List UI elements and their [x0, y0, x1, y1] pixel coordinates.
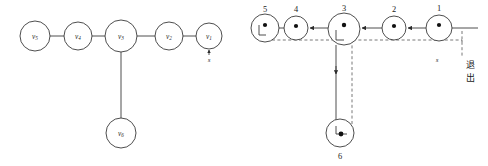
node-v1[interactable]: v1	[196, 23, 222, 49]
node-1-circle	[426, 15, 452, 41]
node-4-dot	[294, 24, 298, 28]
figure-root: v5 v4 v3 v2 v1 s	[0, 0, 488, 166]
node-3-dot	[342, 23, 346, 27]
node-5-label: 5	[263, 5, 267, 14]
source-label-left: s	[208, 56, 211, 64]
left-diagram-group: v5 v4 v3 v2 v1 s	[20, 20, 222, 148]
exit-label-line1: 退	[466, 60, 475, 70]
node-1-dot	[437, 23, 441, 27]
node-1-label: 1	[437, 4, 441, 13]
source-label-right: s	[436, 56, 439, 64]
node-v2[interactable]: v2	[155, 22, 183, 50]
node-v5[interactable]: v5	[20, 21, 50, 51]
node-v4[interactable]: v4	[64, 22, 92, 50]
node-v3[interactable]: v3	[105, 20, 137, 52]
figure-svg: v5 v4 v3 v2 v1 s	[0, 0, 488, 166]
node-4[interactable]: 4	[284, 5, 308, 40]
node-2[interactable]: 2	[382, 5, 406, 40]
dashed-return-horizontal	[260, 40, 462, 42]
node-2-dot	[392, 24, 396, 28]
node-3[interactable]: 3	[328, 4, 360, 45]
node-4-label: 4	[294, 5, 299, 14]
node-3-label: 3	[342, 4, 346, 13]
node-5[interactable]: 5	[251, 5, 279, 42]
exit-label-line2: 出	[466, 72, 475, 83]
node-1[interactable]: 1	[426, 4, 452, 41]
node-6-dot	[339, 132, 344, 137]
node-2-label: 2	[392, 5, 396, 14]
node-v6[interactable]: v6	[106, 118, 136, 148]
node-6[interactable]: 6	[326, 119, 354, 161]
node-5-dot	[263, 23, 267, 27]
node-6-label: 6	[338, 152, 342, 161]
right-diagram-group: 5 4 3 2	[251, 4, 478, 161]
node-5-circle	[251, 14, 279, 42]
